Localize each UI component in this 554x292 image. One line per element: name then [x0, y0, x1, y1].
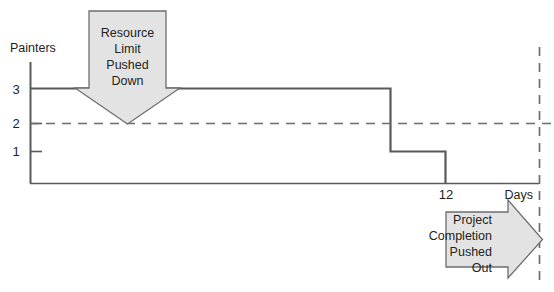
step-path	[30, 89, 446, 184]
callout2-line-1: Project	[453, 213, 492, 227]
callout2-line-3: Pushed	[450, 245, 492, 259]
callout-resource-limit-pushed-down: Resource Limit Pushed Down	[75, 11, 180, 124]
callout-line-1: Resource	[101, 26, 155, 40]
x-axis-unit-label: Days	[505, 188, 533, 202]
y-axis-title: Painters	[10, 41, 56, 55]
callout-line-3: Pushed	[106, 58, 148, 72]
resource-leveling-figure: Painters 3 2 1 12 Days Resource Limit Pu…	[0, 0, 554, 292]
resource-profile-step-line	[30, 89, 446, 184]
callout2-line-4: Out	[472, 261, 493, 275]
y-tick-label-3: 3	[12, 82, 19, 97]
callout-line-2: Limit	[114, 42, 141, 56]
y-tick-label-1: 1	[12, 144, 19, 159]
x-tick-label-12: 12	[439, 187, 453, 202]
y-tick-label-2: 2	[12, 116, 19, 131]
callout2-line-2: Completion	[429, 229, 492, 243]
callout-line-4: Down	[112, 74, 144, 88]
callout-project-completion-pushed-out: Project Completion Pushed Out	[429, 200, 543, 278]
diagram-canvas: Painters 3 2 1 12 Days Resource Limit Pu…	[0, 0, 554, 292]
